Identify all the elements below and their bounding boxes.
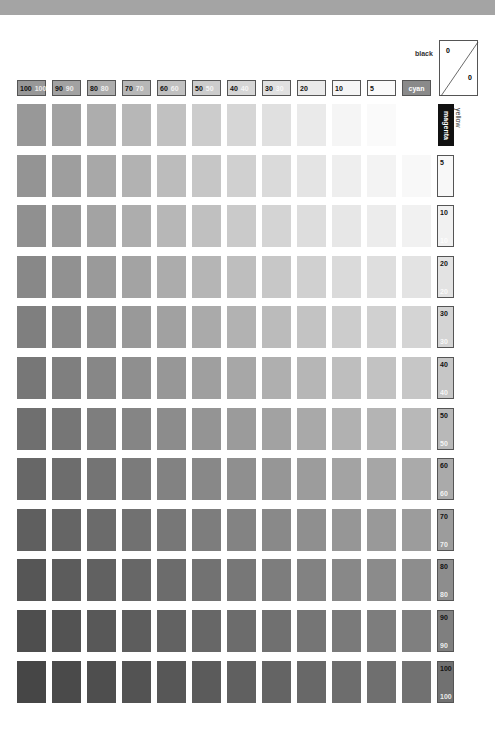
swatch-c5-m40: [367, 357, 396, 399]
cyan-header-80: 8080: [87, 80, 116, 96]
magenta-label: magenta: [438, 104, 454, 146]
cyan-header-60: 6060: [157, 80, 186, 96]
magenta-row-label-20: 2020: [437, 256, 454, 298]
swatch-c90-m50: [52, 408, 81, 450]
swatch-c100-m60: [17, 458, 46, 500]
swatch-c40-m30: [227, 306, 256, 348]
swatch-c70-m80: [122, 559, 151, 601]
swatch-c60-m60: [157, 458, 186, 500]
magenta-row-label-50: 5050: [437, 408, 454, 450]
swatch-c30-m30: [262, 306, 291, 348]
swatch-c50-m20: [192, 256, 221, 298]
swatch-c80-m5: [87, 155, 116, 197]
swatch-c60-m100: [157, 661, 186, 703]
swatch-c30-m50: [262, 408, 291, 450]
swatch-c10-m50: [332, 408, 361, 450]
swatch-c50-m90: [192, 610, 221, 652]
swatch-c60-m0: [157, 104, 186, 146]
swatch-c50-m10: [192, 205, 221, 247]
swatch-c5-m5: [367, 155, 396, 197]
swatch-c20-m5: [297, 155, 326, 197]
swatch-c10-m5: [332, 155, 361, 197]
magenta-row-label-5: 5: [437, 155, 454, 197]
swatch-c90-m20: [52, 256, 81, 298]
swatch-c90-m30: [52, 306, 81, 348]
swatch-c0-m10: [402, 205, 431, 247]
magenta-row-label-90: 9090: [437, 610, 454, 652]
swatch-c10-m40: [332, 357, 361, 399]
swatch-c30-m10: [262, 205, 291, 247]
swatch-c20-m40: [297, 357, 326, 399]
swatch-c80-m0: [87, 104, 116, 146]
swatch-c5-m30: [367, 306, 396, 348]
swatch-c80-m100: [87, 661, 116, 703]
swatch-c90-m90: [52, 610, 81, 652]
cyan-header-90: 9090: [52, 80, 81, 96]
swatch-c70-m10: [122, 205, 151, 247]
swatch-c80-m30: [87, 306, 116, 348]
swatch-c30-m60: [262, 458, 291, 500]
cyan-header-50: 5050: [192, 80, 221, 96]
swatch-c40-m50: [227, 408, 256, 450]
swatch-c5-m20: [367, 256, 396, 298]
swatch-c30-m100: [262, 661, 291, 703]
swatch-c50-m100: [192, 661, 221, 703]
swatch-c40-m5: [227, 155, 256, 197]
black-label: black: [415, 50, 433, 57]
swatch-c10-m60: [332, 458, 361, 500]
swatch-c50-m5: [192, 155, 221, 197]
magenta-row-label-100: 100100: [437, 661, 454, 703]
swatch-c100-m40: [17, 357, 46, 399]
swatch-c60-m90: [157, 610, 186, 652]
swatch-c20-m70: [297, 509, 326, 551]
swatch-c40-m0: [227, 104, 256, 146]
swatch-c60-m70: [157, 509, 186, 551]
cyan-header-20: 20: [297, 80, 326, 96]
cyan-label: cyan: [402, 80, 431, 96]
top-bar: [0, 0, 495, 15]
swatch-c70-m100: [122, 661, 151, 703]
cyan-header-10: 10: [332, 80, 361, 96]
swatch-c0-m0: [402, 104, 431, 146]
swatch-c20-m50: [297, 408, 326, 450]
swatch-c80-m70: [87, 509, 116, 551]
swatch-c100-m0: [17, 104, 46, 146]
swatch-c80-m10: [87, 205, 116, 247]
swatch-c30-m70: [262, 509, 291, 551]
swatch-c10-m70: [332, 509, 361, 551]
key-yellow-value: 0: [468, 74, 472, 81]
swatch-c100-m10: [17, 205, 46, 247]
swatch-c70-m90: [122, 610, 151, 652]
swatch-c70-m50: [122, 408, 151, 450]
swatch-c0-m70: [402, 509, 431, 551]
cyan-header-30: 3030: [262, 80, 291, 96]
swatch-c10-m20: [332, 256, 361, 298]
swatch-c60-m50: [157, 408, 186, 450]
key-black-value: 0: [446, 47, 450, 54]
swatch-c40-m100: [227, 661, 256, 703]
swatch-c10-m100: [332, 661, 361, 703]
swatch-c90-m5: [52, 155, 81, 197]
swatch-c5-m10: [367, 205, 396, 247]
swatch-c20-m60: [297, 458, 326, 500]
swatch-c5-m90: [367, 610, 396, 652]
swatch-c70-m70: [122, 509, 151, 551]
swatch-c60-m40: [157, 357, 186, 399]
swatch-c10-m90: [332, 610, 361, 652]
yellow-label: yellow: [455, 108, 462, 127]
swatch-c100-m70: [17, 509, 46, 551]
swatch-c10-m0: [332, 104, 361, 146]
swatch-c10-m80: [332, 559, 361, 601]
magenta-row-label-30: 3030: [437, 306, 454, 348]
magenta-row-label-70: 7070: [437, 509, 454, 551]
swatch-c5-m60: [367, 458, 396, 500]
swatch-c50-m40: [192, 357, 221, 399]
swatch-c0-m60: [402, 458, 431, 500]
swatch-c20-m0: [297, 104, 326, 146]
swatch-c0-m30: [402, 306, 431, 348]
swatch-c50-m0: [192, 104, 221, 146]
swatch-c5-m80: [367, 559, 396, 601]
swatch-c20-m30: [297, 306, 326, 348]
swatch-c30-m40: [262, 357, 291, 399]
swatch-c40-m90: [227, 610, 256, 652]
